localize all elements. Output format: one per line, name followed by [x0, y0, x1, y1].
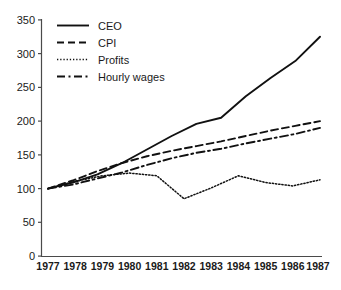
series-line-hourly-wages	[48, 128, 320, 189]
x-tick-label-1981: 1981	[145, 260, 169, 272]
x-tick-label-1982: 1982	[172, 260, 196, 272]
chart-legend: CEO CPI Profits Hourly wages	[57, 20, 165, 83]
x-tick-label-1979: 1979	[91, 260, 115, 272]
chart-series-group	[48, 37, 320, 199]
series-line-ceo	[48, 37, 320, 189]
x-tick-label-1987: 1987	[306, 260, 330, 272]
y-tick-label-300: 300	[17, 48, 35, 60]
y-tick-label-250: 250	[17, 81, 35, 93]
y-tick-label-200: 200	[17, 115, 35, 127]
y-tick-label-150: 150	[17, 149, 35, 161]
legend-label-cpi: CPI	[98, 37, 116, 49]
x-tick-label-1983: 1983	[200, 260, 224, 272]
y-tick-label-0: 0	[29, 250, 35, 262]
x-tick-label-1984: 1984	[227, 260, 251, 272]
x-tick-label-1985: 1985	[254, 260, 278, 272]
x-tick-label-1977: 1977	[36, 260, 60, 272]
x-tick-label-1980: 1980	[118, 260, 142, 272]
line-chart: 350 300 250 200 150 100 50 0 1977 1978 1…	[0, 0, 341, 290]
x-tick-label-1986: 1986	[281, 260, 305, 272]
y-tick-label-350: 350	[17, 14, 35, 26]
legend-label-ceo: CEO	[98, 20, 122, 32]
y-tick-label-50: 50	[23, 216, 35, 228]
y-tick-label-100: 100	[17, 183, 35, 195]
legend-label-profits: Profits	[98, 54, 130, 66]
chart-plot-area: 350 300 250 200 150 100 50 0 1977 1978 1…	[0, 0, 341, 290]
legend-label-hourly-wages: Hourly wages	[98, 71, 165, 83]
x-tick-label-1978: 1978	[64, 260, 88, 272]
